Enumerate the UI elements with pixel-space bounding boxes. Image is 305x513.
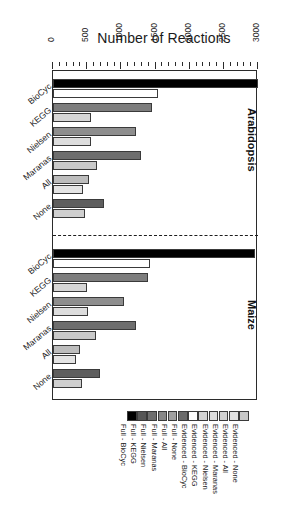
legend-item[interactable]: Full - All <box>168 411 178 421</box>
legend-item[interactable]: Full - None <box>178 411 188 421</box>
bar-group <box>53 369 256 388</box>
x-axis-minor-tick <box>127 62 128 66</box>
x-axis-minor-tick <box>59 62 60 66</box>
bar-group <box>53 127 256 146</box>
legend-swatch <box>178 411 188 421</box>
x-axis-major-tick <box>189 62 190 69</box>
x-axis-minor-tick <box>161 62 162 66</box>
x-axis-minor-tick <box>93 62 94 66</box>
bar-evidenced <box>53 185 83 194</box>
legend-swatch <box>127 411 137 421</box>
x-axis-minor-tick <box>230 62 231 66</box>
legend-item[interactable]: Evidenced - BioCyc <box>188 411 198 421</box>
panel-arabidopsis <box>53 71 256 231</box>
panel-label-maize: Maize <box>246 300 258 330</box>
x-axis: 050010001500200025003000 <box>52 62 257 70</box>
panel-divider <box>53 235 258 236</box>
x-axis-minor-tick <box>196 62 197 66</box>
bar-evidenced <box>53 283 87 292</box>
legend-swatch <box>168 411 178 421</box>
legend-item[interactable]: Evidenced - KEGG <box>198 411 208 421</box>
bar-full <box>53 369 100 378</box>
bar-full <box>53 127 136 136</box>
x-axis-tick-label: 1000 <box>114 23 124 42</box>
bar-group <box>53 103 256 122</box>
bar-evidenced <box>53 161 97 170</box>
legend-swatch <box>198 411 208 421</box>
x-axis-minor-tick <box>175 62 176 66</box>
legend-label: Evidenced - BioCyc <box>180 424 189 489</box>
legend-label: Full - BioCyc <box>119 424 128 466</box>
bar-group <box>53 297 256 316</box>
legend-label: Full - All <box>160 424 169 450</box>
legend-label: Evidenced - Maranas <box>211 424 220 494</box>
bar-full <box>53 297 124 306</box>
bar-group <box>53 151 256 170</box>
x-axis-major-tick <box>120 62 121 69</box>
x-axis-tick-label: 2000 <box>183 23 193 42</box>
bar-group <box>53 79 256 98</box>
legend-item[interactable]: Evidenced - None <box>239 411 249 421</box>
bar-group <box>53 199 256 218</box>
legend-label: Evidenced - None <box>231 424 240 483</box>
bar-evidenced <box>53 259 150 268</box>
legend-item[interactable]: Full - Nielsen <box>147 411 157 421</box>
bar-full <box>53 199 104 208</box>
panel-maize <box>53 241 256 401</box>
bar-group <box>53 175 256 194</box>
x-axis-major-tick <box>86 62 87 69</box>
bar-evidenced <box>53 379 82 388</box>
legend-swatch <box>219 411 229 421</box>
x-axis-major-tick <box>155 62 156 69</box>
x-axis-minor-tick <box>148 62 149 66</box>
x-axis-major-tick <box>52 62 53 69</box>
chart-title: Number of Reactions <box>74 30 254 46</box>
x-axis-minor-tick <box>209 62 210 66</box>
x-axis-minor-tick <box>79 62 80 66</box>
x-axis-minor-tick <box>250 62 251 66</box>
x-axis-tick-label: 500 <box>80 28 90 42</box>
legend-item[interactable]: Evidenced - Nielsen <box>209 411 219 421</box>
x-axis-tick-label: 2500 <box>217 23 227 42</box>
x-axis-minor-tick <box>216 62 217 66</box>
x-axis-minor-tick <box>182 62 183 66</box>
x-axis-minor-tick <box>237 62 238 66</box>
legend-item[interactable]: Full - KEGG <box>137 411 147 421</box>
bar-full <box>53 249 255 258</box>
bar-full <box>53 175 89 184</box>
bar-full <box>53 345 80 354</box>
legend-swatch <box>209 411 219 421</box>
legend-swatch <box>137 411 147 421</box>
x-axis-tick-label: 1500 <box>149 23 159 42</box>
bar-evidenced <box>53 113 91 122</box>
bar-group <box>53 249 256 268</box>
legend-swatch <box>188 411 198 421</box>
bar-group <box>53 321 256 340</box>
legend-item[interactable]: Evidenced - Maranas <box>219 411 229 421</box>
x-axis-minor-tick <box>243 62 244 66</box>
bar-full <box>53 273 148 282</box>
legend-swatch <box>229 411 239 421</box>
legend-item[interactable]: Full - Maranas <box>158 411 168 421</box>
legend-label: Evidenced - KEGG <box>190 424 199 486</box>
bar-evidenced <box>53 137 91 146</box>
bar-full <box>53 151 141 160</box>
x-axis-tick-label: 0 <box>46 37 56 42</box>
bar-group <box>53 273 256 292</box>
legend-swatch <box>147 411 157 421</box>
bar-full <box>53 79 258 88</box>
bar-evidenced <box>53 355 76 364</box>
legend-label: Full - Nielsen <box>139 424 148 467</box>
legend-swatch <box>239 411 249 421</box>
x-axis-minor-tick <box>107 62 108 66</box>
bar-evidenced <box>53 209 85 218</box>
legend-item[interactable]: Evidenced - All <box>229 411 239 421</box>
x-axis-minor-tick <box>66 62 67 66</box>
chart-root: Number of Reactions 05001000150020002500… <box>0 0 305 513</box>
legend-item[interactable]: Full - BioCyc <box>127 411 137 421</box>
legend-label: Evidenced - All <box>221 424 230 473</box>
panel-label-arabidopsis: Arabidopsis <box>246 108 258 172</box>
x-axis-major-tick <box>257 62 258 69</box>
legend-label: Full - KEGG <box>129 424 138 464</box>
x-axis-minor-tick <box>100 62 101 66</box>
